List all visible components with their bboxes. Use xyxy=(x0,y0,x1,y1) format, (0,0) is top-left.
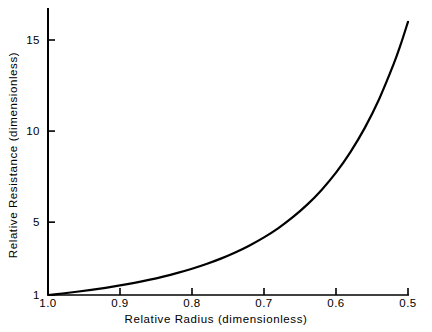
x-axis-title: Relative Radius (dimensionless) xyxy=(0,313,432,325)
y-tick-label: 5 xyxy=(18,216,40,228)
y-tick-label: 1 xyxy=(18,289,40,301)
x-tick-label: 0.7 xyxy=(255,297,273,309)
x-tick-label: 0.8 xyxy=(183,297,201,309)
plot-area xyxy=(0,0,432,332)
x-tick-label: 0.9 xyxy=(111,297,129,309)
y-axis-title-wrapper: Relative Resistance (dimensionless) xyxy=(0,0,26,310)
x-tick-label: 0.5 xyxy=(399,297,417,309)
resistance-curve xyxy=(48,22,408,295)
x-tick-label: 1.0 xyxy=(39,297,57,309)
y-axis-ticks xyxy=(48,40,55,295)
x-tick-label: 0.6 xyxy=(327,297,345,309)
y-tick-label: 10 xyxy=(18,125,40,137)
y-tick-label: 15 xyxy=(18,34,40,46)
chart-figure: Relative Resistance (dimensionless) Rela… xyxy=(0,0,432,332)
